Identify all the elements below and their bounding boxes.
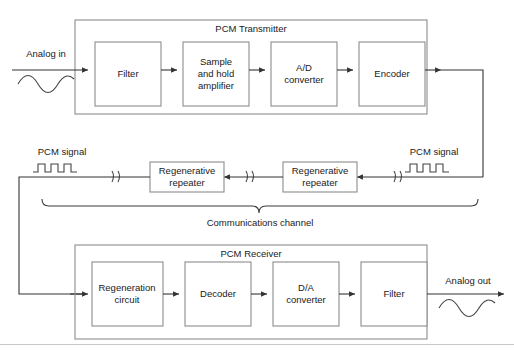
communications-channel-label: Communications channel <box>207 217 314 228</box>
block-regeneration-circuit-label-2: circuit <box>115 294 140 305</box>
block-ad-converter-label-2: converter <box>284 74 324 85</box>
pcm-signal-label-left: PCM signal <box>38 146 87 157</box>
block-regeneration-circuit-label-1: Regeneration <box>98 282 155 293</box>
block-sample-hold-label-1: Sample <box>200 56 232 67</box>
block-encoder-label: Encoder <box>374 68 409 79</box>
wire-tx-to-channel <box>441 70 483 177</box>
block-decoder-label: Decoder <box>200 288 236 299</box>
block-repeater-left-label-1: Regenerative <box>159 165 216 176</box>
pcm-signal-label-right: PCM signal <box>410 146 459 157</box>
pcm-system-diagram: PCM Transmitter Analog in Filter Sample … <box>0 0 514 361</box>
block-da-converter-label-2: converter <box>286 294 326 305</box>
block-repeater-right-label-2: repeater <box>302 177 337 188</box>
pcm-receiver-label: PCM Receiver <box>220 248 281 259</box>
pcm-signal-waveform-left-icon <box>33 164 77 172</box>
analog-out-label: Analog out <box>445 275 491 286</box>
block-repeater-right-label-1: Regenerative <box>292 165 349 176</box>
analog-in-label: Analog in <box>26 48 66 59</box>
block-repeater-left-label-2: repeater <box>169 177 204 188</box>
communications-channel-brace <box>42 199 478 213</box>
block-filter-tx-label: Filter <box>117 68 138 79</box>
analog-in-sine-icon <box>18 76 74 93</box>
block-ad-converter-label-1: A/D <box>296 62 312 73</box>
analog-out-sine-icon <box>439 300 495 317</box>
caption-divider <box>0 344 514 345</box>
block-filter-rx-label: Filter <box>383 288 404 299</box>
block-da-converter-label-1: D/A <box>298 282 315 293</box>
pcm-transmitter-label: PCM Transmitter <box>215 23 286 34</box>
diagram-canvas: PCM Transmitter Analog in Filter Sample … <box>0 0 514 361</box>
block-sample-hold-label-3: amplifier <box>198 80 234 91</box>
pcm-signal-waveform-right-icon <box>405 164 449 172</box>
block-sample-hold-label-2: and hold <box>198 68 234 79</box>
